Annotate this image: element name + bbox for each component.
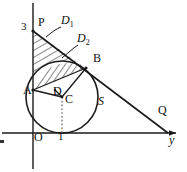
- label-point-c: C: [65, 93, 73, 105]
- label-point-d: D: [53, 85, 62, 97]
- label-region-d2-base: D: [77, 31, 86, 45]
- label-region-d1-sub: 1: [70, 20, 74, 29]
- point-p-dot: [31, 29, 34, 32]
- tick-label-three: 3: [21, 21, 27, 32]
- label-point-q: Q: [158, 104, 167, 116]
- scan-artifact-mark: [0, 140, 4, 143]
- label-origin-o: O: [34, 131, 43, 143]
- leader-line-d1: [46, 27, 61, 37]
- label-region-s: S: [98, 95, 104, 107]
- label-region-d2: D2: [77, 32, 90, 47]
- label-region-d1-base: D: [61, 13, 70, 27]
- tick-label-one: 1: [58, 131, 64, 142]
- axis-label-y: y: [169, 134, 174, 146]
- label-region-d1: D1: [61, 14, 74, 29]
- point-b-dot: [84, 66, 87, 69]
- label-point-p: P: [38, 16, 45, 28]
- label-region-d2-sub: 2: [86, 38, 90, 47]
- label-point-b: B: [93, 52, 101, 64]
- geometry-figure: P B A D C Q S O D1 D2 3 1 y: [0, 0, 187, 172]
- label-point-a: A: [23, 84, 32, 96]
- leader-line-d2: [62, 45, 78, 58]
